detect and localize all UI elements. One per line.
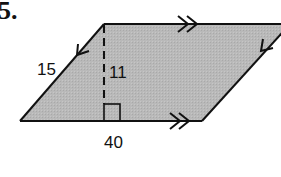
side-length-label: 15 bbox=[37, 60, 56, 79]
base-length-label: 40 bbox=[104, 133, 123, 152]
height-label: 11 bbox=[109, 63, 127, 82]
parallelogram-diagram: 15 11 40 bbox=[0, 0, 281, 177]
parallelogram-shape bbox=[20, 24, 281, 121]
